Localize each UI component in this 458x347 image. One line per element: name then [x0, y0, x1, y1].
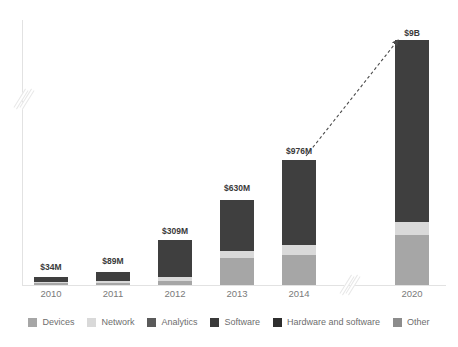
legend-label: Network	[101, 317, 134, 327]
stacked-bar[interactable]	[282, 160, 316, 285]
bar-segment[interactable]	[220, 251, 254, 258]
bar-segment[interactable]	[220, 200, 254, 251]
bar-value-label: $309M	[130, 226, 220, 236]
bar-segment[interactable]	[34, 283, 68, 285]
legend-label: Other	[407, 317, 430, 327]
stacked-bar[interactable]	[34, 277, 68, 285]
stacked-bar[interactable]	[158, 240, 192, 285]
chart-legend: DevicesNetworkAnalyticsSoftwareHardware …	[0, 312, 458, 332]
x-axis-line	[22, 285, 446, 286]
legend-item[interactable]: Software	[210, 317, 260, 327]
plot-area: $34M$89M$309M$630M$976M$9B 2010201120122…	[0, 0, 458, 300]
bar-segment[interactable]	[282, 255, 316, 285]
bar-value-label: $89M	[68, 256, 158, 266]
legend-swatch-icon	[273, 318, 282, 327]
stacked-bar[interactable]	[395, 40, 429, 285]
bar-segment[interactable]	[96, 272, 130, 281]
legend-swatch-icon	[87, 318, 96, 327]
legend-item[interactable]: Other	[393, 317, 430, 327]
legend-swatch-icon	[393, 318, 402, 327]
chart-container: $34M$89M$309M$630M$976M$9B 2010201120122…	[0, 0, 458, 347]
bar-segment[interactable]	[158, 240, 192, 277]
x-tick-2014: 2014	[254, 288, 344, 299]
bar-segment[interactable]	[282, 160, 316, 245]
legend-label: Devices	[42, 317, 74, 327]
legend-item[interactable]: Analytics	[147, 317, 197, 327]
legend-item[interactable]: Network	[87, 317, 134, 327]
y-axis-break-icon	[11, 88, 35, 116]
bar-segment[interactable]	[220, 258, 254, 285]
legend-swatch-icon	[210, 318, 219, 327]
bar-segment[interactable]	[395, 235, 429, 285]
y-axis-line	[22, 20, 23, 285]
bar-segment[interactable]	[395, 40, 429, 222]
stacked-bar[interactable]	[220, 200, 254, 285]
bar-value-label: $630M	[192, 183, 282, 193]
bar-segment[interactable]	[282, 245, 316, 255]
bar-segment[interactable]	[158, 281, 192, 285]
legend-item[interactable]: Devices	[28, 317, 74, 327]
legend-label: Hardware and software	[287, 317, 380, 327]
legend-swatch-icon	[28, 318, 37, 327]
bar-segment[interactable]	[395, 222, 429, 235]
legend-item[interactable]: Hardware and software	[273, 317, 380, 327]
x-tick-2020: 2020	[367, 288, 457, 299]
bar-value-label: $976M	[254, 146, 344, 156]
legend-swatch-icon	[147, 318, 156, 327]
bar-value-label: $9B	[367, 28, 457, 38]
legend-label: Analytics	[161, 317, 197, 327]
stacked-bar[interactable]	[96, 272, 130, 285]
legend-label: Software	[224, 317, 260, 327]
bar-segment[interactable]	[96, 283, 130, 285]
